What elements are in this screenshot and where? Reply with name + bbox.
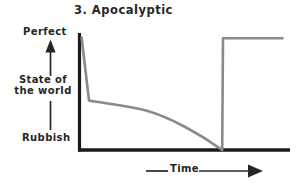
up-arrow-icon — [45, 40, 55, 77]
y-axis-title: State of the world — [10, 75, 76, 96]
chart-title: 3. Apocalyptic — [74, 4, 173, 16]
y-axis-bottom-label: Rubbish — [22, 133, 70, 144]
right-arrow-icon — [199, 165, 263, 178]
x-axis-label: Time — [170, 164, 199, 175]
chart-canvas: 3. Apocalyptic Perfect State of the worl… — [0, 0, 299, 187]
state-of-world-curve — [82, 37, 284, 151]
y-axis-top-label: Perfect — [23, 27, 67, 38]
